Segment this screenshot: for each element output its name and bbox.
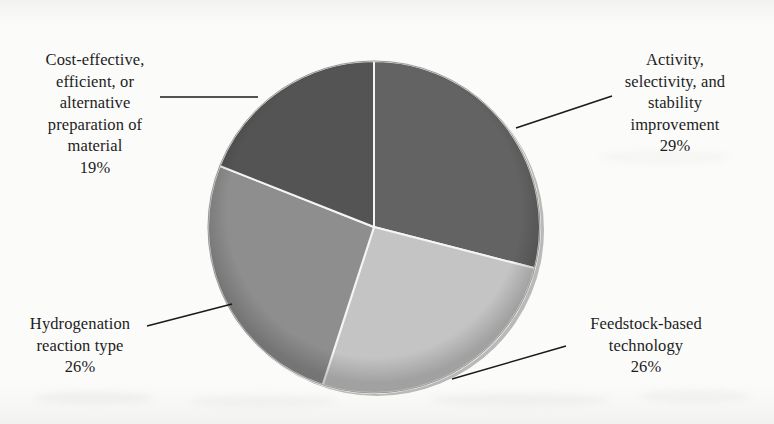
pie-label-text-activity: Activity, selectivity, and stability imp…	[625, 50, 725, 133]
pie-label-cost-effective-preparation: Cost-effective, efficient, or alternativ…	[30, 28, 160, 200]
pie-label-text-hydrogenation: Hydrogenation reaction type	[30, 314, 130, 354]
pie-label-activity-selectivity-stability: Activity, selectivity, and stability imp…	[600, 28, 750, 178]
pie-label-value-activity: 29%	[600, 135, 750, 156]
pie-label-text-cost-effective: Cost-effective, efficient, or alternativ…	[46, 50, 145, 155]
leader-line-activity	[516, 96, 612, 128]
pie-label-value-cost-effective: 19%	[30, 157, 160, 178]
pie-label-value-feedstock: 26%	[566, 356, 726, 377]
pie-chart-figure: Cost-effective, efficient, or alternativ…	[0, 0, 774, 424]
leader-line-hydrogenation	[147, 304, 232, 326]
pie-label-text-feedstock: Feedstock-based technology	[590, 314, 701, 354]
pie-label-hydrogenation-reaction-type: Hydrogenation reaction type 26%	[10, 292, 150, 399]
pie-label-feedstock-based-technology: Feedstock-based technology 26%	[566, 292, 726, 399]
pie-label-value-hydrogenation: 26%	[10, 356, 150, 377]
